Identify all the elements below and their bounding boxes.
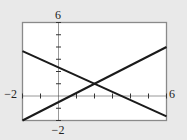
y-min-label: −2 <box>52 123 65 137</box>
x-max-label: 6 <box>169 87 175 101</box>
graph-window: 6 −2 −2 6 <box>0 0 187 140</box>
x-min-label: −2 <box>4 87 17 101</box>
y-max-label: 6 <box>55 8 61 22</box>
